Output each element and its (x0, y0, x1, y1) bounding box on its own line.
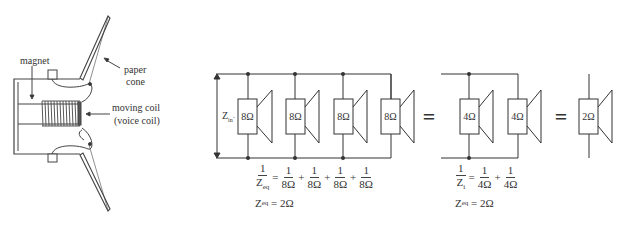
operator: + (298, 172, 304, 183)
equals-sign: = (423, 104, 436, 129)
equals-sign: = (555, 104, 568, 129)
speaker-cross-section (14, 16, 120, 211)
impedance-label: 8Ω (337, 111, 349, 122)
impedance-label: 8Ω (384, 111, 396, 122)
fraction: 1 Zi (456, 163, 466, 191)
zin-dot: . (233, 111, 235, 120)
zin-label: Zin (222, 110, 233, 123)
magnet-label: magnet (20, 55, 50, 66)
moving-coil-label: moving coil (112, 102, 160, 113)
impedance-label: 4Ω (511, 111, 523, 122)
numerator: 1 (258, 163, 268, 176)
result-line: Zeq = 2Ω (255, 198, 374, 209)
result-line: Zeq = 2Ω (455, 198, 518, 209)
operator: + (324, 172, 330, 183)
paper-cone-label: paper (124, 64, 147, 75)
equation-circuit-2: 1 Zi = 14Ω + 14Ω Zeq = 2Ω (455, 163, 518, 209)
equation-circuit-1: 1 Zeq = 18Ω + 18Ω + 18Ω + 18Ω Zeq = 2Ω (255, 163, 374, 209)
fraction: 18Ω (307, 165, 321, 190)
paper-cone-label: cone (126, 76, 145, 87)
fraction: 18Ω (333, 165, 347, 190)
numerator: 1 (456, 163, 466, 176)
fraction: 14Ω (478, 165, 492, 190)
fraction: 18Ω (359, 165, 373, 190)
operator: + (494, 172, 500, 183)
voice-coil-label: (voice coil) (114, 115, 160, 127)
denominator: Zi (456, 176, 465, 191)
impedance-label: 4Ω (463, 111, 475, 122)
operator: = (469, 172, 475, 183)
impedance-label: 8Ω (289, 111, 301, 122)
fraction: 14Ω (504, 165, 518, 190)
denominator: Zeq (256, 176, 269, 191)
fraction: 1 Zeq (256, 163, 269, 191)
fraction: 18Ω (282, 165, 296, 190)
impedance-label: 8Ω (241, 111, 253, 122)
impedance-label: 2Ω (582, 111, 594, 122)
operator: + (350, 172, 356, 183)
operator: = (272, 172, 278, 183)
